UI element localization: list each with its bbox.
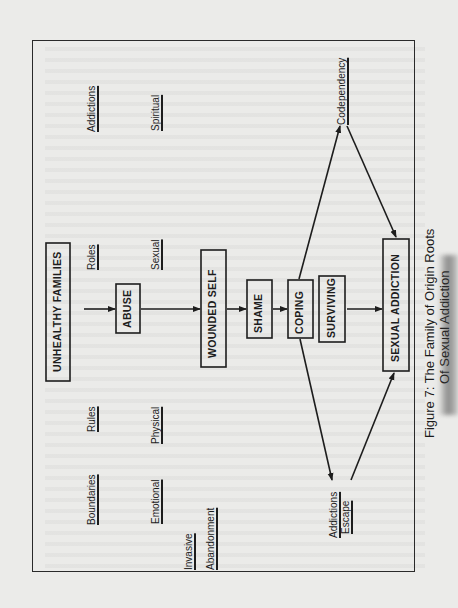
label-rules: Rules	[86, 406, 97, 432]
label-boundaries: Boundaries	[86, 474, 97, 525]
box-unhealthy-families: UNHEALTHY FAMILIES	[51, 251, 63, 372]
label-roles: Roles	[86, 244, 97, 270]
box-surviving: SURVIVING	[325, 278, 337, 338]
box-abuse: ABUSE	[121, 290, 133, 328]
figure-caption-line1: Figure 7: The Family of Origin Roots	[422, 229, 437, 438]
scan-smudge	[438, 255, 458, 415]
label-sexual: Sexual	[150, 239, 161, 270]
label-abandonment: Abandonment	[205, 508, 216, 570]
label-emotional: Emotional	[150, 480, 161, 524]
box-coping: COPING	[293, 291, 305, 334]
label-invasive: Invasive	[183, 533, 194, 570]
label-physical: Physical	[150, 407, 161, 444]
label-addictions-escape-line2: Escape	[340, 501, 351, 534]
box-shame: SHAME	[252, 294, 264, 333]
book-page: UNHEALTHY FAMILIES ABUSE WOUNDED SELF SH…	[0, 0, 458, 608]
label-codependency: Codependency	[336, 58, 347, 125]
label-addictions-escape-line1: Addictions	[328, 492, 339, 538]
label-addictions: Addictions	[86, 86, 97, 132]
label-spiritual: Spiritual	[150, 95, 161, 131]
box-sexual-addiction: SEXUAL ADDICTION	[389, 254, 401, 362]
box-wounded-self: WOUNDED SELF	[206, 269, 218, 358]
